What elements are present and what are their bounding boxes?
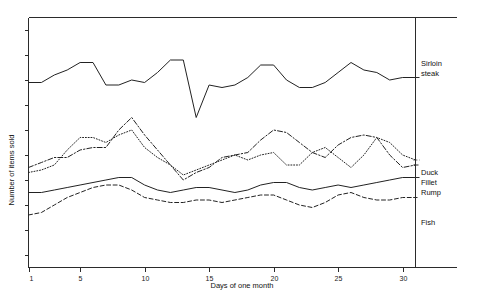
y-axis-title: Number of items sold: [7, 135, 16, 206]
legend-label-sirloin-line1: Sirloin: [421, 59, 442, 68]
legend-label-duck: Duck: [421, 168, 438, 177]
chart-background: [0, 0, 484, 300]
x-axis-tick-label: 10: [142, 275, 150, 282]
x-axis-tick-label: 30: [400, 275, 408, 282]
chart-page: 151015202530 Days of one month Number of…: [0, 0, 484, 300]
legend-label-fish: Fish: [421, 218, 435, 227]
line-chart: 151015202530 Days of one month Number of…: [0, 0, 484, 300]
x-axis-tick-label: 25: [335, 275, 343, 282]
legend-label-sirloin-line2: steak: [421, 69, 439, 78]
legend-label-rump: Rump: [421, 188, 441, 197]
legend-label-fillet: Fillet: [421, 178, 438, 187]
x-axis-title: Days of one month: [211, 281, 274, 290]
x-axis-tick-label: 1: [30, 275, 34, 282]
x-axis-tick-label: 5: [79, 275, 83, 282]
